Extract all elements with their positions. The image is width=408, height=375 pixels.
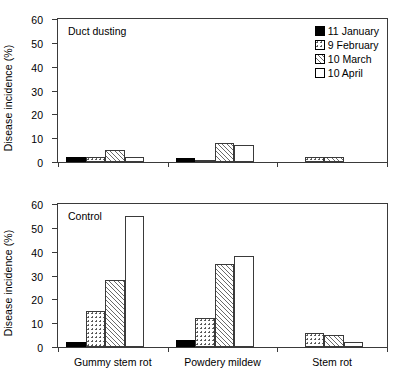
y-axis-tick-label: 60 xyxy=(31,14,43,26)
bar xyxy=(66,342,86,347)
x-axis-tick xyxy=(277,347,278,352)
y-axis-tick-label: 30 xyxy=(31,271,43,283)
x-axis-tick xyxy=(58,162,59,167)
bar xyxy=(344,342,364,347)
y-axis-tick-label: 0 xyxy=(37,342,43,354)
x-axis-category-label: Stem rot xyxy=(312,356,352,368)
y-axis-label-bottom: Disease incidence (%) xyxy=(2,203,16,363)
y-axis-tick-label: 40 xyxy=(31,247,43,259)
bar xyxy=(86,157,106,162)
bar xyxy=(105,280,125,347)
bar xyxy=(234,145,254,162)
bar xyxy=(195,318,215,347)
bars-top xyxy=(58,19,387,162)
panel-control: Disease incidence (%) Control 0102030405… xyxy=(0,185,408,375)
y-axis-label-top: Disease incidence (%) xyxy=(2,18,16,178)
y-axis-tick-label: 10 xyxy=(31,318,43,330)
plot-area-top: Duct dusting 11 January 9 February 10 Ma… xyxy=(57,18,388,163)
x-axis-tick xyxy=(168,347,169,352)
x-axis-tick xyxy=(168,162,169,167)
x-axis-tick xyxy=(58,347,59,352)
bar xyxy=(176,340,196,347)
bar xyxy=(324,335,344,347)
y-axis-tick-label: 10 xyxy=(31,133,43,145)
y-axis-tick-label: 0 xyxy=(37,157,43,169)
plot-area-bottom: Control 0102030405060 xyxy=(57,203,388,348)
y-axis-tick-label: 20 xyxy=(31,109,43,121)
bars-bottom xyxy=(58,204,387,347)
bar xyxy=(215,264,235,347)
x-axis-category-label: Powdery mildew xyxy=(184,356,260,368)
y-axis-tick-label: 60 xyxy=(31,199,43,211)
x-axis-tick xyxy=(387,162,388,167)
bar xyxy=(105,150,125,162)
x-axis-tick xyxy=(387,347,388,352)
bar xyxy=(215,143,235,162)
bar xyxy=(66,157,86,162)
bar xyxy=(234,256,254,347)
x-axis-tick xyxy=(277,162,278,167)
x-axis-category-label: Gummy stem rot xyxy=(74,356,152,368)
bar xyxy=(176,158,196,162)
y-axis-tick-label: 50 xyxy=(31,38,43,50)
bar xyxy=(86,311,106,347)
y-axis-tick-label: 40 xyxy=(31,62,43,74)
y-axis-tick-label: 50 xyxy=(31,223,43,235)
bar xyxy=(125,216,145,347)
panel-duct-dusting: Disease incidence (%) Duct dusting 11 Ja… xyxy=(0,0,408,190)
y-axis-tick-label: 30 xyxy=(31,86,43,98)
bar xyxy=(125,157,145,162)
bar xyxy=(305,157,325,162)
bar xyxy=(305,333,325,347)
bar xyxy=(195,160,215,162)
bar xyxy=(324,157,344,162)
y-axis-tick-label: 20 xyxy=(31,294,43,306)
figure: Disease incidence (%) Duct dusting 11 Ja… xyxy=(0,0,408,375)
